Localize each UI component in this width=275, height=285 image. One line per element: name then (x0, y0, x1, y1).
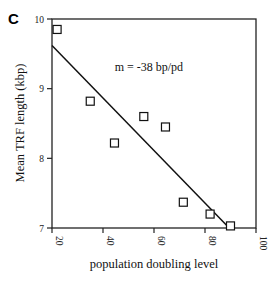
data-point-marker (161, 123, 169, 131)
plot-frame (52, 19, 256, 228)
slope-annotation: m = -38 bp/pd (115, 60, 183, 74)
y-tick-label: 7 (39, 224, 44, 234)
data-point-marker (140, 113, 148, 121)
y-axis-title: Mean TRF length (kbp) (13, 64, 27, 183)
data-point-marker (110, 139, 118, 147)
chart: C 78910 20406080100 m = -38 bp/pd popula… (0, 0, 275, 285)
x-axis-title: population doubling level (90, 257, 219, 271)
x-tick-label: 80 (207, 236, 217, 246)
x-tick-label: 20 (54, 236, 64, 246)
data-point-marker (86, 97, 94, 105)
data-point-marker (179, 198, 187, 206)
y-axis: 78910 (35, 15, 53, 234)
data-point-marker (206, 210, 214, 218)
data-point-marker (53, 25, 61, 33)
y-tick-label: 8 (39, 154, 44, 164)
y-tick-label: 10 (35, 15, 45, 25)
x-tick-label: 60 (156, 236, 166, 246)
y-tick-label: 9 (39, 84, 44, 94)
panel-label: C (8, 10, 19, 27)
x-tick-label: 40 (105, 236, 115, 246)
x-tick-label: 100 (258, 236, 268, 251)
x-axis: 20406080100 (52, 228, 268, 251)
data-point-marker (227, 222, 235, 230)
data-points (53, 25, 234, 229)
